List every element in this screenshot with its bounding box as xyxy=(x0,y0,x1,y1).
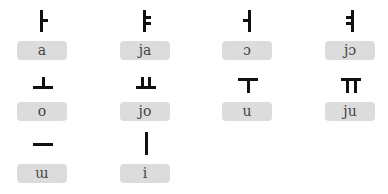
romanization-label: ɔ xyxy=(222,41,272,60)
o-vowel-glyph xyxy=(17,73,69,99)
romanization-label: jɔ xyxy=(325,41,375,60)
romanization-label: a xyxy=(17,41,67,60)
eo-vowel-glyph xyxy=(222,9,274,35)
eu-vowel-glyph xyxy=(17,138,69,164)
romanization-label: ɯ xyxy=(17,164,67,183)
romanization-label: ju xyxy=(325,102,375,121)
romanization-label: o xyxy=(17,102,67,121)
romanization-label: jo xyxy=(120,102,170,121)
yu-vowel-glyph xyxy=(325,75,377,101)
yeo-vowel-glyph xyxy=(325,9,377,35)
a-vowel-glyph xyxy=(17,9,69,35)
romanization-label: i xyxy=(120,164,170,183)
u-vowel-glyph xyxy=(222,75,274,101)
i-vowel-glyph xyxy=(120,131,172,157)
romanization-label: u xyxy=(222,102,272,121)
romanization-label: ja xyxy=(120,41,170,60)
ya-vowel-glyph xyxy=(120,9,172,35)
yo-vowel-glyph xyxy=(120,73,172,99)
